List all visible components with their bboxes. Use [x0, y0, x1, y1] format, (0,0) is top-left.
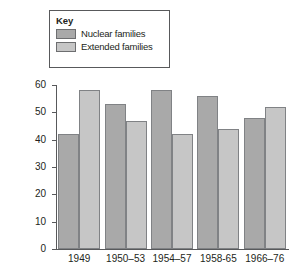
legend-entry-extended-families: Extended families	[56, 41, 163, 52]
plot-area: 0102030405060	[56, 85, 288, 249]
bar-nuclear-1966-76	[244, 118, 265, 249]
x-axis-label: 1958-65	[195, 253, 241, 264]
bar-extended-1949	[79, 90, 100, 249]
bar-extended-1958-65	[218, 129, 239, 249]
bar-nuclear-1949	[58, 134, 79, 249]
legend-swatch-nuclear-families	[56, 29, 76, 39]
bar-group	[195, 85, 241, 249]
legend-label-extended-families: Extended families	[81, 41, 153, 52]
x-axis-label: 1966–76	[242, 253, 288, 264]
bar-extended-1966-76	[265, 107, 286, 249]
bar-group	[56, 85, 102, 249]
y-tick-label-50: 50	[35, 107, 46, 117]
y-tick-label-0: 0	[40, 244, 46, 254]
legend-entry-nuclear-families: Nuclear families	[56, 28, 163, 39]
y-tick-label-10: 10	[35, 217, 46, 227]
x-axis-label: 1954–57	[149, 253, 195, 264]
bar-group	[149, 85, 195, 249]
y-tick-label-40: 40	[35, 135, 46, 145]
legend-label-nuclear-families: Nuclear families	[81, 28, 145, 39]
bar-extended-1950-53	[126, 121, 147, 249]
bar-extended-1954-57	[172, 134, 193, 249]
y-tick-0: 0	[52, 249, 56, 250]
bar-group	[242, 85, 288, 249]
x-axis-line	[56, 249, 289, 250]
y-tick-label-20: 20	[35, 189, 46, 199]
bar-nuclear-1958-65	[197, 96, 218, 249]
y-tick-label-30: 30	[35, 162, 46, 172]
chart-legend: Key Nuclear families Extended families	[49, 10, 170, 68]
legend-title: Key	[56, 15, 163, 26]
bar-group	[102, 85, 148, 249]
legend-swatch-extended-families	[56, 42, 76, 52]
y-tick-label-60: 60	[35, 80, 46, 90]
x-axis-label: 1950–53	[102, 253, 148, 264]
x-axis-label: 1949	[56, 253, 102, 264]
bar-chart: Key Nuclear families Extended families %…	[0, 0, 299, 274]
bar-nuclear-1950-53	[105, 104, 126, 249]
bar-nuclear-1954-57	[151, 90, 172, 249]
